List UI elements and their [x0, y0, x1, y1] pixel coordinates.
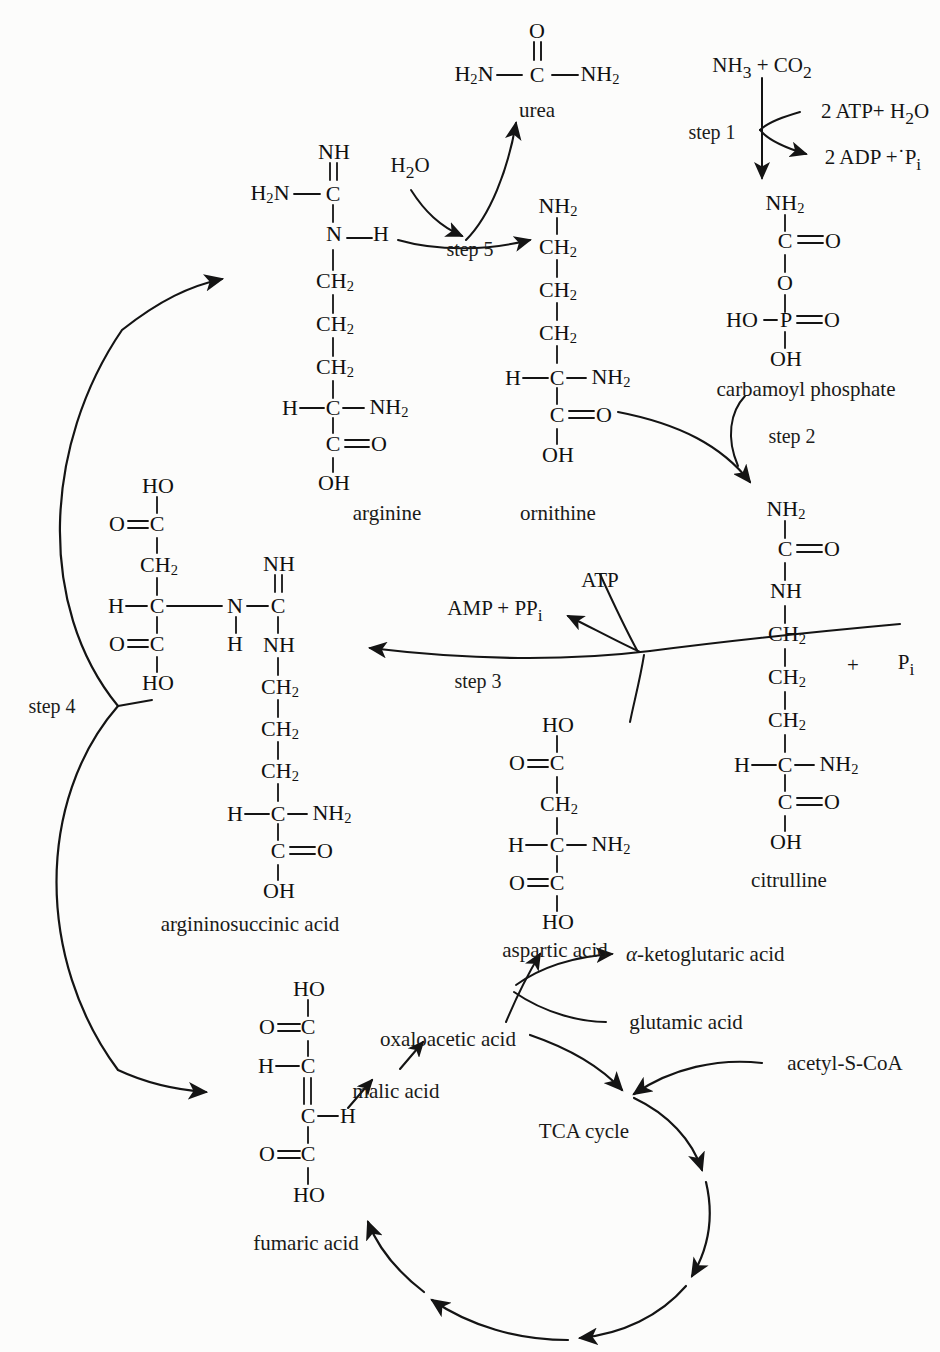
- atom-asp-ho-top: HO: [542, 714, 574, 736]
- atom-arg-ch2-1: CH2: [316, 270, 354, 294]
- tca-arc-2: [692, 1182, 710, 1276]
- label-malic-acid: malic acid: [353, 1079, 440, 1104]
- label-carbamoyl-phosphate: carbamoyl phosphate: [716, 377, 895, 402]
- atom-arg-ch2-2: CH2: [316, 313, 354, 337]
- step4-to-fumarate: [57, 706, 207, 1092]
- label-atp-step3: ATP: [581, 568, 618, 593]
- label-glutamic-acid: glutamic acid: [629, 1010, 743, 1035]
- atom-asp-nh2: NH2: [591, 833, 630, 857]
- label-2adp-pi: 2 ADP +˙Pi: [825, 145, 921, 174]
- atom-orn-ch2-3: CH2: [539, 322, 577, 346]
- atom-cp-ho: HO: [726, 309, 758, 331]
- step5-urea-out: [466, 123, 516, 240]
- label-arginine: arginine: [353, 501, 421, 526]
- atom-asa-nh2-alpha: NH2: [312, 802, 351, 826]
- atom-asa-c-alpha: C: [271, 803, 286, 825]
- label-step-4: step 4: [28, 695, 75, 718]
- tca-arc-5: [368, 1222, 424, 1292]
- atom-asp-o-top: O: [509, 752, 525, 774]
- label-alpha-ketoglutaric-acid: α-ketoglutaric acid: [626, 944, 785, 965]
- atom-asa-c-top: C: [150, 513, 165, 535]
- atom-fum-c-top: C: [301, 1016, 316, 1038]
- atom-fum-c-bottom: C: [301, 1143, 316, 1165]
- label-aspartic-acid: aspartic acid: [502, 938, 608, 963]
- step2-hook: [731, 396, 745, 466]
- tca-acetylcoa-in: [634, 1062, 762, 1094]
- atom-asp-o-bottom: O: [509, 872, 525, 894]
- step4-to-arginine: [60, 279, 222, 706]
- atom-orn-ch2-1: CH2: [539, 236, 577, 260]
- atom-asa-ho-bottom: HO: [142, 672, 174, 694]
- atom-asa-o-top: O: [109, 513, 125, 535]
- atom-cit-oh: OH: [770, 831, 802, 853]
- carbamoyl-phosphate-bonds: [764, 215, 823, 348]
- atom-fum-ho-bottom: HO: [293, 1184, 325, 1206]
- atom-asp-c-alpha: C: [550, 834, 565, 856]
- atom-orn-ch2-2: CH2: [539, 279, 577, 303]
- step4-stem: [118, 700, 152, 706]
- label-ornithine: ornithine: [520, 501, 596, 526]
- atom-asa-c-guanidino: C: [271, 595, 286, 617]
- atom-cit-c-alpha: C: [778, 754, 793, 776]
- atom-cit-ch2-3: CH2: [768, 709, 806, 733]
- atom-orn-c-carboxyl: C: [550, 404, 565, 426]
- atom-cit-c-carboxyl: C: [778, 791, 793, 813]
- atom-cit-o: O: [824, 538, 840, 560]
- tca-arc-3: [580, 1286, 686, 1338]
- atom-arg-nh2: NH2: [369, 396, 408, 420]
- atom-asa-ho-top: HO: [142, 475, 174, 497]
- label-2atp-h2o: 2 ATP+ H2O: [821, 99, 929, 128]
- transamination-arrow: [506, 954, 540, 1022]
- atom-cp-o-ester: O: [777, 272, 793, 294]
- atom-orn-oh: OH: [542, 444, 574, 466]
- atom-cit-o-carboxyl: O: [824, 791, 840, 813]
- step5-water-in: [411, 190, 462, 236]
- step1-atp-in-curve: [760, 112, 800, 130]
- atom-cp-oh: OH: [770, 348, 802, 370]
- atom-fum-c-alkene-1: C: [301, 1055, 316, 1077]
- atom-asa-ch2-3: CH2: [261, 760, 299, 784]
- atom-asa-n: N: [227, 595, 243, 617]
- atom-urea-c: C: [530, 64, 545, 86]
- atom-arg-c-alpha: C: [326, 397, 341, 419]
- atom-asa-c-carboxyl: C: [271, 840, 286, 862]
- atom-cit-nh2-alpha: NH2: [819, 753, 858, 777]
- atom-fum-h-bottom: H: [340, 1105, 356, 1127]
- atom-arg-nh: NH: [318, 141, 350, 163]
- tca-oxaloacetate-in: [530, 1035, 622, 1090]
- label-pi: Pi: [898, 650, 915, 679]
- atom-cit-nh2: NH2: [766, 498, 805, 522]
- atom-asa-h-alpha: H: [227, 803, 243, 825]
- atom-asa-ch2: CH2: [140, 554, 178, 578]
- label-step-2: step 2: [768, 425, 815, 448]
- atom-fum-h-top: H: [258, 1055, 274, 1077]
- atom-asp-c-top: C: [550, 752, 565, 774]
- tca-arc-1: [634, 1098, 702, 1170]
- atom-asp-h-alpha: H: [508, 834, 524, 856]
- atom-asa-nh-top: NH: [263, 553, 295, 575]
- atom-cit-c-carbamoyl: C: [778, 538, 793, 560]
- atom-arg-h2n: H2N: [250, 182, 289, 206]
- atom-urea-o: O: [529, 20, 545, 42]
- atom-asa-o-bottom: O: [109, 633, 125, 655]
- atom-cp-o-double: O: [825, 230, 841, 252]
- atom-asa-h: H: [108, 595, 124, 617]
- label-oxaloacetic-acid: oxaloacetic acid: [380, 1027, 516, 1052]
- step2-arrow: [618, 412, 750, 482]
- atom-cp-c: C: [778, 230, 793, 252]
- atom-orn-h-alpha: H: [505, 367, 521, 389]
- atom-fum-c-alkene-2: C: [301, 1105, 316, 1127]
- atom-arg-oh: OH: [318, 472, 350, 494]
- atom-arg-o: O: [371, 433, 387, 455]
- label-step-5: step 5: [446, 238, 493, 261]
- atom-cit-nh: NH: [770, 580, 802, 602]
- label-amp-ppi: AMP + PPi: [447, 596, 542, 625]
- label-step-3: step 3: [454, 670, 501, 693]
- urea-cycle-diagram: H2N C O NH2 urea NH3 + CO2 step 1 2 ATP+…: [0, 0, 940, 1352]
- atom-fum-o-bottom: O: [259, 1143, 275, 1165]
- step3-aspartate-in: [630, 655, 644, 722]
- step1-adp-out-curve: [760, 130, 806, 154]
- atom-asp-c-bottom: C: [550, 872, 565, 894]
- atom-arg-n: N: [326, 223, 342, 245]
- atom-asa-n-h: H: [227, 633, 243, 655]
